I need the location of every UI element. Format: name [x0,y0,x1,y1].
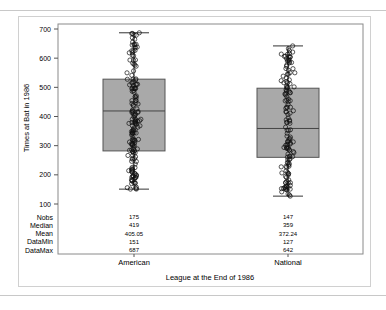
data-point [291,67,295,71]
stat-value: 372.24 [279,231,298,237]
stat-value: 151 [129,239,140,245]
stat-label: Mean [35,230,53,237]
stat-label: DataMin [27,238,53,245]
y-tick-label: 500 [39,84,51,91]
y-tick-label: 400 [39,113,51,120]
y-axis-label: Times at Bat in 1986 [22,84,31,153]
stat-value: 147 [283,214,294,220]
x-axis-label: League at the End of 1986 [166,273,254,282]
data-point [279,165,283,169]
y-tick-label: 700 [39,26,51,33]
data-point [126,153,130,157]
stat-value: 419 [129,222,140,228]
y-tick-label: 200 [39,171,51,178]
stat-value: 359 [283,222,294,228]
stat-label: DataMax [25,247,54,254]
y-tick-label: 300 [39,142,51,149]
stat-label: Median [30,222,53,229]
y-tick-label: 100 [39,201,51,208]
x-tick-label: National [274,258,302,267]
stat-value: 642 [283,247,294,253]
data-point [279,52,283,56]
data-point [293,71,297,75]
data-point [125,71,129,75]
stat-value: 405.05 [125,231,144,237]
stat-value: 687 [129,247,140,253]
data-point [280,171,284,175]
y-tick-label: 600 [39,55,51,62]
stat-label: Nobs [37,214,54,221]
box-plot: 100200300400500600700Times at Bat in 198… [0,0,386,310]
stat-value: 175 [129,214,140,220]
x-tick-label: American [118,258,150,267]
stat-value: 127 [283,239,294,245]
data-point [130,73,134,77]
